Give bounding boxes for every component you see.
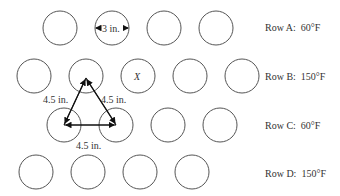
spacing-label-right: 4.5 in. — [101, 94, 126, 105]
tube-circle — [123, 155, 157, 189]
tube-circle — [71, 155, 105, 189]
tube-circle — [199, 11, 233, 45]
row-d-label: Row D: 150°F — [265, 168, 326, 179]
tube-circle — [225, 59, 259, 93]
tube-circle — [203, 108, 237, 142]
tube-circle — [17, 59, 51, 93]
marked-tube-label: X — [133, 71, 141, 82]
row-a-label: Row A: 60°F — [265, 22, 320, 33]
tube-circle — [173, 59, 207, 93]
diameter-label: 3 in. — [102, 23, 120, 34]
tube-circle — [175, 155, 209, 189]
row-b-label: Row B: 150°F — [265, 71, 325, 82]
tube-circle — [147, 11, 181, 45]
row-c-label: Row C: 60°F — [265, 120, 320, 131]
tube-circle — [43, 11, 77, 45]
spacing-label-left: 4.5 in. — [43, 94, 68, 105]
tube-circle — [19, 155, 53, 189]
tube-circle — [151, 108, 185, 142]
tube-circle — [69, 59, 103, 93]
spacing-label-bottom: 4.5 in. — [76, 140, 101, 151]
